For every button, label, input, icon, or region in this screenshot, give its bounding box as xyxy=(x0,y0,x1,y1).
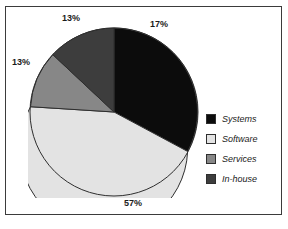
data-label-services: 13% xyxy=(12,57,30,67)
legend-label-inhouse: In-house xyxy=(222,174,257,184)
pie-chart-figure: 17% 57% 13% 13% Systems Software Service… xyxy=(0,0,288,229)
legend-label-systems: Systems xyxy=(222,114,257,124)
data-label-inhouse: 13% xyxy=(62,13,80,23)
legend-swatch-software xyxy=(206,134,216,144)
pie-svg xyxy=(28,26,200,198)
legend-item-software[interactable]: Software xyxy=(206,130,280,147)
legend-swatch-systems xyxy=(206,114,216,124)
data-label-systems: 17% xyxy=(150,19,168,29)
data-label-software: 57% xyxy=(124,198,142,208)
legend-item-systems[interactable]: Systems xyxy=(206,110,280,127)
legend-swatch-inhouse xyxy=(206,174,216,184)
legend-item-services[interactable]: Services xyxy=(206,150,280,167)
legend-label-software: Software xyxy=(222,134,258,144)
chart-plot-area: 17% 57% 13% 13% Systems Software Service… xyxy=(0,0,288,229)
legend-label-services: Services xyxy=(222,154,257,164)
legend-swatch-services xyxy=(206,154,216,164)
chart-legend: Systems Software Services In-house xyxy=(206,110,280,190)
legend-item-inhouse[interactable]: In-house xyxy=(206,170,280,187)
